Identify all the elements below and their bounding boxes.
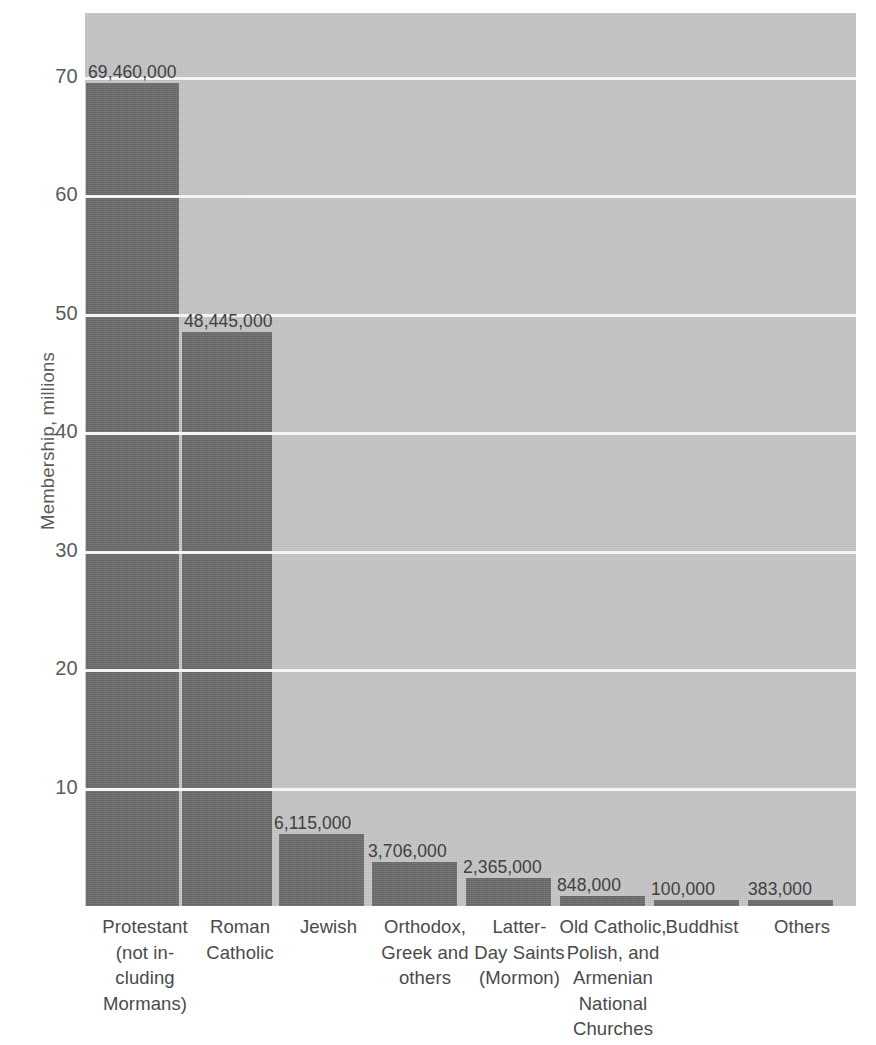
x-category-line: Orthodox, <box>369 914 481 940</box>
x-category-label-7: Others <box>757 914 847 940</box>
x-category-label-3: Orthodox,Greek andothers <box>369 914 481 991</box>
x-category-line: Buddhist <box>657 914 747 940</box>
clipped-title-remnant <box>330 0 550 5</box>
x-category-line: Roman <box>190 914 290 940</box>
x-category-line: Armenian <box>557 965 669 991</box>
bar-chart-figure: Membership, millions 10203040506070 69,4… <box>0 0 876 1045</box>
x-category-line: Old Catholic, <box>557 914 669 940</box>
gridline-30 <box>85 551 856 554</box>
x-category-line: Jewish <box>281 914 376 940</box>
x-category-label-0: Protestant(not in-cludingMormans) <box>89 914 201 1016</box>
x-category-line: National <box>557 991 669 1017</box>
gridline-40 <box>85 432 856 435</box>
x-category-line: Polish, and <box>557 940 669 966</box>
x-category-line: Others <box>757 914 847 940</box>
gridline-60 <box>85 195 856 198</box>
y-tick-label-10: 10 <box>32 777 78 797</box>
y-tick-label-20: 20 <box>32 658 78 678</box>
value-label-4: 2,365,000 <box>463 857 542 877</box>
x-category-line: Greek and <box>369 940 481 966</box>
value-label-7: 383,000 <box>748 879 812 899</box>
bar-3 <box>372 862 457 906</box>
value-label-3: 3,706,000 <box>368 841 447 861</box>
gridline-20 <box>85 669 856 672</box>
x-category-label-1: RomanCatholic <box>190 914 290 965</box>
y-tick-label-60: 60 <box>32 184 78 204</box>
value-label-6: 100,000 <box>651 879 715 899</box>
value-label-5: 848,000 <box>557 875 621 895</box>
x-category-line: cluding <box>89 965 201 991</box>
y-tick-label-50: 50 <box>32 303 78 323</box>
bar-7 <box>748 900 833 906</box>
x-category-label-5: Old Catholic,Polish, andArmenianNational… <box>557 914 669 1042</box>
plot-area <box>85 13 856 906</box>
y-axis: Membership, millions 10203040506070 <box>10 0 78 906</box>
x-category-line: Protestant <box>89 914 201 940</box>
x-category-line: others <box>369 965 481 991</box>
x-axis-category-labels: Protestant(not in-cludingMormans)RomanCa… <box>85 914 876 1045</box>
value-label-0: 69,460,000 <box>88 62 177 82</box>
bar-2 <box>279 834 364 906</box>
x-category-line: Churches <box>557 1016 669 1042</box>
bar-5 <box>560 896 645 906</box>
gridline-10 <box>85 788 856 791</box>
value-label-1: 48,445,000 <box>184 311 273 331</box>
y-tick-label-70: 70 <box>32 66 78 86</box>
gridline-70 <box>85 77 856 80</box>
x-category-label-2: Jewish <box>281 914 376 940</box>
bar-1 <box>182 332 272 906</box>
x-category-line: Mormans) <box>89 991 201 1017</box>
x-category-label-6: Buddhist <box>657 914 747 940</box>
value-label-2: 6,115,000 <box>274 813 351 833</box>
y-tick-label-40: 40 <box>32 421 78 441</box>
bar-6 <box>654 900 739 906</box>
bar-4 <box>466 878 551 906</box>
x-category-line: Catholic <box>190 940 290 966</box>
y-tick-label-30: 30 <box>32 540 78 560</box>
bar-0 <box>86 83 179 906</box>
x-category-line: (not in- <box>89 940 201 966</box>
